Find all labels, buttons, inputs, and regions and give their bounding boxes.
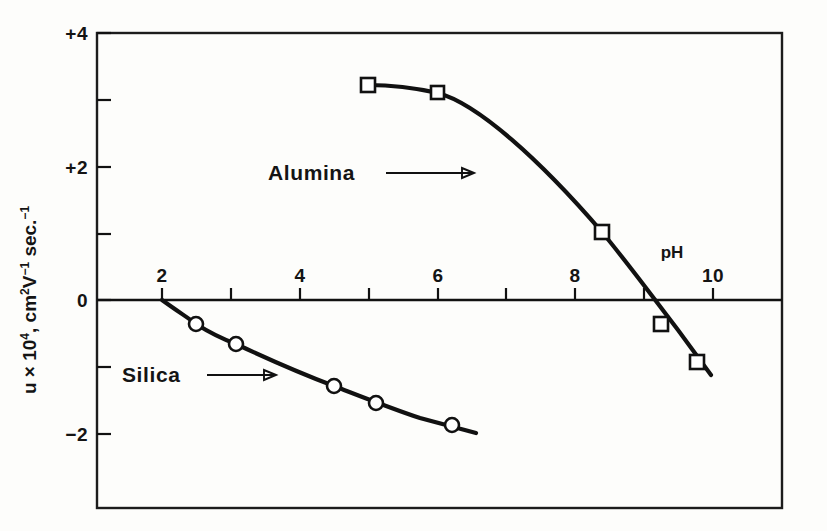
alumina-markers [361, 78, 704, 369]
y-title-exp-sec: −1 [18, 206, 32, 220]
silica-label: Silica [122, 363, 180, 386]
figure-canvas: +4 +2 0 −2 2 4 6 8 10 pH u × 104, cm2V−1… [0, 0, 827, 531]
silica-point-ph6p2 [445, 418, 459, 432]
alumina-point-ph8p4 [595, 225, 609, 239]
electrophoretic-mobility-chart: +4 +2 0 −2 2 4 6 8 10 pH u × 104, cm2V−1… [0, 0, 827, 531]
y-axis-ticks [97, 33, 111, 434]
xtick-label-4: 4 [294, 265, 305, 286]
y-title-part-main: u × 10 [19, 340, 40, 394]
x-axis-title: pH [661, 243, 684, 262]
alumina-callout-arrow [386, 168, 474, 178]
alumina-label: Alumina [268, 161, 355, 184]
xtick-label-6: 6 [432, 265, 443, 286]
silica-point-ph5p1 [369, 396, 383, 410]
y-title-part-sec: sec. [19, 220, 40, 262]
ytick-label-zero: 0 [77, 290, 88, 311]
y-title-part-v: V [19, 275, 40, 288]
ytick-label-minus2: −2 [65, 424, 88, 445]
silica-callout-arrow [207, 370, 276, 380]
svg-text:u × 104, cm2V−1 sec.−1: u × 104, cm2V−1 sec.−1 [18, 206, 40, 394]
xtick-label-2: 2 [156, 265, 167, 286]
y-axis-title: u × 104, cm2V−1 sec.−1 [18, 206, 40, 394]
silica-curve [162, 300, 476, 433]
alumina-point-ph9p25 [654, 317, 668, 331]
silica-point-ph4p5 [327, 379, 341, 393]
ytick-label-plus4: +4 [65, 23, 88, 44]
alumina-point-ph9p75 [690, 355, 704, 369]
y-title-exp-v: −1 [18, 262, 32, 276]
silica-point-ph2p5 [189, 317, 203, 331]
y-title-part-mid: , cm [19, 295, 40, 333]
ytick-label-plus2: +2 [65, 157, 88, 178]
alumina-point-ph5 [361, 78, 375, 92]
xtick-label-10: 10 [702, 265, 724, 286]
x-axis-ticks [162, 288, 713, 300]
silica-point-ph3p1 [229, 337, 243, 351]
xtick-label-8: 8 [569, 265, 580, 286]
alumina-point-ph6 [431, 86, 444, 99]
